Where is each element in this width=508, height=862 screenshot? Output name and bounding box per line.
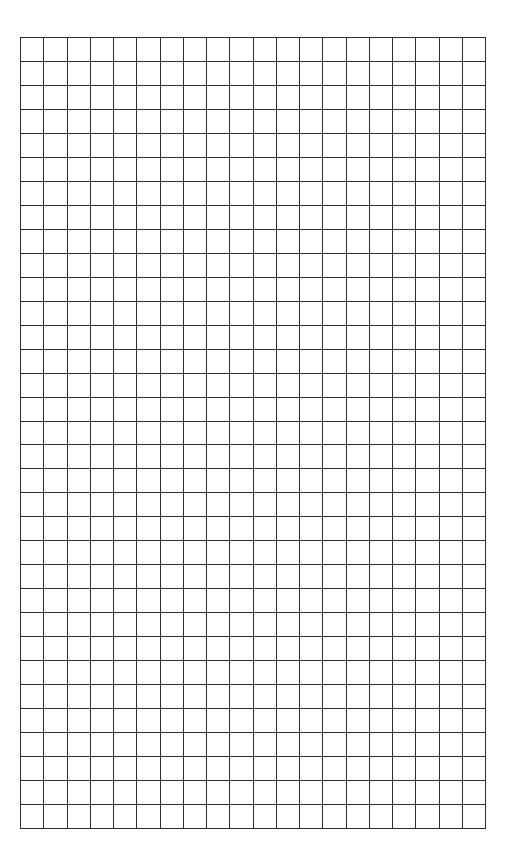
grid-cell [229, 277, 252, 301]
grid-cell [253, 516, 276, 540]
grid-cell [276, 205, 299, 229]
grid-cell [392, 756, 415, 780]
grid-cell [392, 277, 415, 301]
grid-cell [183, 540, 206, 564]
grid-cell [67, 468, 90, 492]
grid-cell [276, 85, 299, 109]
grid-cell [462, 253, 485, 277]
grid-cell [20, 373, 43, 397]
grid-cell [20, 181, 43, 205]
grid-cell [206, 397, 229, 421]
grid-cell [322, 780, 345, 804]
grid-cell [299, 540, 322, 564]
grid-cell [369, 277, 392, 301]
grid-cell [346, 37, 369, 61]
grid-cell [415, 277, 438, 301]
grid-cell [229, 397, 252, 421]
grid-cell [206, 205, 229, 229]
grid-cell [299, 397, 322, 421]
grid-cell [439, 277, 462, 301]
grid-cell [392, 444, 415, 468]
grid-cell [392, 373, 415, 397]
grid-cell [392, 157, 415, 181]
grid-cell [20, 253, 43, 277]
grid-cell [392, 85, 415, 109]
grid-cell [369, 109, 392, 133]
grid-cell [392, 61, 415, 85]
grid-cell [462, 612, 485, 636]
grid-cell [415, 181, 438, 205]
grid-cell [322, 636, 345, 660]
grid-cell [136, 516, 159, 540]
grid-cell [392, 732, 415, 756]
grid-cell [462, 229, 485, 253]
grid-cell [136, 660, 159, 684]
grid-cell [369, 732, 392, 756]
grid-cell [136, 636, 159, 660]
grid-cell [392, 780, 415, 804]
grid-cell [183, 660, 206, 684]
grid-cell [346, 708, 369, 732]
grid-cell [276, 373, 299, 397]
grid-cell [322, 133, 345, 157]
grid-cell [253, 804, 276, 828]
grid-cell [462, 301, 485, 325]
grid-cell [90, 756, 113, 780]
grid-cell [369, 540, 392, 564]
grid-cell [299, 564, 322, 588]
grid-cell [20, 421, 43, 445]
grid-cell [346, 564, 369, 588]
grid-cell [322, 325, 345, 349]
grid-cell [160, 684, 183, 708]
grid-cell [253, 588, 276, 612]
grid-cell [206, 756, 229, 780]
grid-cell [415, 780, 438, 804]
grid-cell [90, 205, 113, 229]
grid-cell [369, 205, 392, 229]
grid-cell [299, 373, 322, 397]
grid-cell [67, 61, 90, 85]
grid-cell [160, 708, 183, 732]
grid-cell [136, 468, 159, 492]
grid-cell [369, 301, 392, 325]
grid-cell [415, 660, 438, 684]
grid-cell [276, 109, 299, 133]
grid-cell [415, 444, 438, 468]
grid-cell [392, 612, 415, 636]
grid-cell [462, 516, 485, 540]
grid-cell [90, 804, 113, 828]
grid-cell [346, 157, 369, 181]
grid-cell [462, 732, 485, 756]
grid-cell [462, 349, 485, 373]
grid-cell [439, 444, 462, 468]
grid-cell [392, 253, 415, 277]
grid-cell [346, 516, 369, 540]
grid-cell [90, 516, 113, 540]
grid-cell [392, 708, 415, 732]
grid-cell [67, 301, 90, 325]
grid-cell [113, 301, 136, 325]
grid-cell [369, 133, 392, 157]
grid-cell [160, 468, 183, 492]
grid-cell [299, 277, 322, 301]
grid-cell [160, 612, 183, 636]
grid-cell [20, 301, 43, 325]
grid-cell [90, 61, 113, 85]
grid-cell [229, 133, 252, 157]
grid-cell [462, 109, 485, 133]
grid-cell [113, 444, 136, 468]
grid-cell [276, 684, 299, 708]
grid-cell [43, 253, 66, 277]
grid-cell [20, 277, 43, 301]
grid-cell [392, 325, 415, 349]
grid-cell [183, 588, 206, 612]
grid-cell [206, 421, 229, 445]
grid-cell [113, 61, 136, 85]
grid-cell [346, 421, 369, 445]
grid-cell [206, 444, 229, 468]
grid-cell [439, 684, 462, 708]
grid-cell [253, 277, 276, 301]
grid-cell [183, 61, 206, 85]
grid-cell [299, 181, 322, 205]
grid-cell [462, 157, 485, 181]
